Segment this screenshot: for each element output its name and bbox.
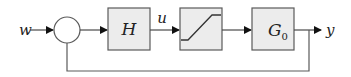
output-label-y: y (325, 21, 335, 39)
summing-junction (54, 17, 80, 43)
block-saturation (180, 8, 222, 50)
block-diagram: w H u G0 y (0, 0, 351, 77)
signal-label-u: u (157, 9, 167, 27)
block-h: H (108, 8, 150, 50)
block-g0: G0 (252, 8, 294, 50)
block-h-label: H (121, 19, 138, 39)
